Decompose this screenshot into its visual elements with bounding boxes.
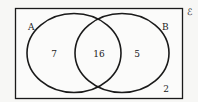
region-a-only-value: 7	[51, 49, 57, 59]
universal-set-symbol: ℰ	[187, 7, 193, 17]
set-a-label: A	[27, 22, 35, 32]
set-b-label: B	[162, 22, 169, 32]
venn-diagram: ℰ A B 7 16 5 2	[0, 0, 198, 102]
region-intersection-value: 16	[93, 49, 105, 59]
region-neither-value: 2	[163, 84, 169, 94]
region-b-only-value: 5	[134, 49, 140, 59]
